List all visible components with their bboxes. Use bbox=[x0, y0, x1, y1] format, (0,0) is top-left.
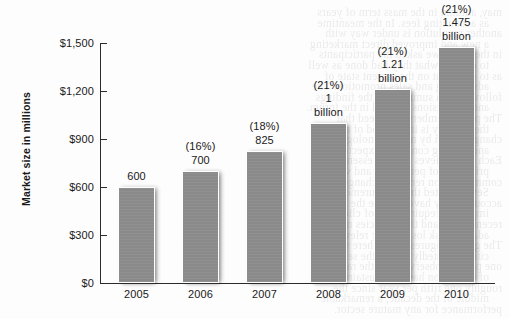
x-axis-label-2009: 2009 bbox=[361, 288, 424, 300]
y-axis-title: Market size in millions bbox=[20, 79, 32, 219]
bar-chart: Market size in millions $0$300$600$900$1… bbox=[0, 0, 510, 319]
bar-2006 bbox=[182, 171, 219, 283]
bar-2009 bbox=[374, 89, 411, 283]
bar-2010 bbox=[438, 47, 475, 283]
y-axis-tick-label: $900 bbox=[32, 133, 94, 145]
x-axis-label-2008: 2008 bbox=[297, 288, 360, 300]
x-axis-line bbox=[100, 283, 495, 284]
bar-value-label-2009: (21%) 1.21 billion bbox=[353, 45, 432, 86]
bar-2005 bbox=[118, 187, 155, 283]
y-axis-line bbox=[100, 43, 101, 284]
bar-2007 bbox=[246, 151, 283, 283]
bar-value-label-2007: (18%) 825 bbox=[225, 120, 304, 147]
x-axis-label-2006: 2006 bbox=[169, 288, 232, 300]
bar-value-label-2010: (21%) 1.475 billion bbox=[417, 3, 496, 44]
bar-2008 bbox=[310, 123, 347, 283]
y-axis-tick-label: $1,200 bbox=[32, 85, 94, 97]
y-axis-tick-label: $0 bbox=[32, 277, 94, 289]
x-axis-label-2007: 2007 bbox=[233, 288, 296, 300]
x-axis-label-2010: 2010 bbox=[425, 288, 488, 300]
y-axis-tick-label: $1,500 bbox=[32, 37, 94, 49]
bar-value-label-2005: 600 bbox=[97, 170, 176, 184]
y-axis-tick-label: $600 bbox=[32, 181, 94, 193]
y-axis-tick-label: $300 bbox=[32, 229, 94, 241]
x-axis-label-2005: 2005 bbox=[105, 288, 168, 300]
